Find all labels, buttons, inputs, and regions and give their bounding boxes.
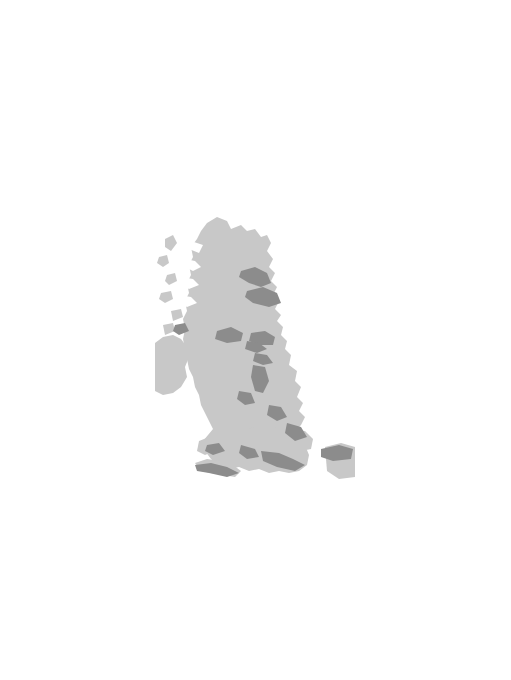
figure-root xyxy=(0,0,511,680)
british-isles-map xyxy=(155,215,355,485)
